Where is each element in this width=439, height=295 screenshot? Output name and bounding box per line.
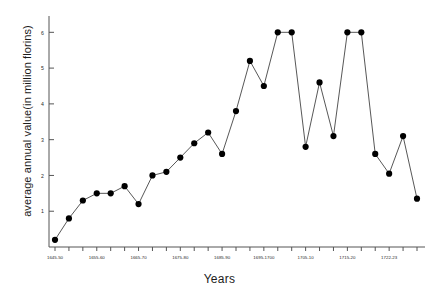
x-tick-label: 1695-1700 (253, 255, 275, 260)
data-point (52, 237, 58, 243)
data-point (149, 172, 155, 178)
data-point (330, 133, 336, 139)
data-point (191, 140, 197, 146)
x-tick-label: 1675-80 (172, 255, 189, 260)
data-point (400, 133, 406, 139)
data-point (358, 29, 364, 35)
line-chart-plot: 1234561645-501655-601665-701675-801685-9… (0, 0, 439, 295)
data-point (163, 169, 169, 175)
data-point (303, 144, 309, 150)
data-point (94, 190, 100, 196)
x-tick-label: 1685-90 (214, 255, 231, 260)
data-point (219, 151, 225, 157)
data-point (275, 29, 281, 35)
x-axis-ticks (55, 247, 417, 251)
y-tick-label: 2 (41, 173, 44, 179)
x-tick-label: 1655-60 (89, 255, 106, 260)
data-point (247, 58, 253, 64)
y-tick-label: 5 (41, 65, 44, 71)
data-line (55, 32, 417, 240)
data-point (233, 108, 239, 114)
x-tick-label: 1705-10 (298, 255, 315, 260)
data-point (66, 215, 72, 221)
x-tick-labels: 1645-501655-601665-701675-801685-901695-… (47, 255, 398, 260)
x-tick-label: 1722-23 (381, 255, 398, 260)
data-point (289, 29, 295, 35)
data-point (177, 154, 183, 160)
y-tick-label: 6 (41, 30, 44, 36)
data-point (261, 83, 267, 89)
y-tick-label: 1 (41, 208, 44, 214)
y-tick-label: 3 (41, 137, 44, 143)
data-point (344, 29, 350, 35)
data-point (80, 197, 86, 203)
y-tick-label: 4 (41, 101, 44, 107)
chart-container: average annual value(in million florins)… (0, 0, 439, 295)
axes (49, 16, 425, 247)
data-point (386, 171, 392, 177)
x-tick-label: 1665-70 (130, 255, 147, 260)
data-point (122, 183, 128, 189)
data-point (108, 190, 114, 196)
data-point (205, 129, 211, 135)
data-point (135, 201, 141, 207)
x-tick-label: 1645-50 (47, 255, 64, 260)
data-point (414, 196, 420, 202)
y-axis-ticks: 123456 (41, 30, 54, 215)
x-tick-label: 1715-20 (339, 255, 356, 260)
data-point (372, 151, 378, 157)
data-point (316, 79, 322, 85)
